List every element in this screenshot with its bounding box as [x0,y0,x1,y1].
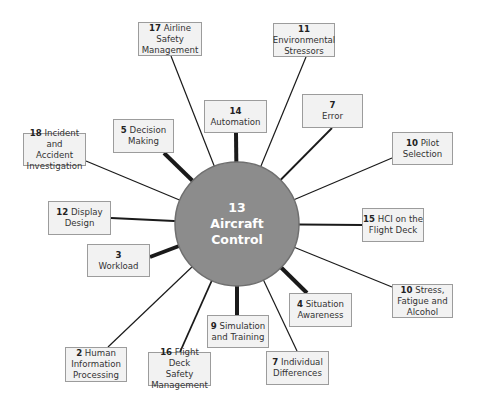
topic-text: 9 Simulation and Training [211,321,266,343]
topic-text: 15 HCI on the Flight Deck [363,214,423,236]
center-node-aircraft-control: 13 Aircraft Control [175,162,299,286]
topic-box-n16: 16 Flight Deck Safety Management [148,352,211,386]
topic-box-n18: 18 Incident and Accident Investigation [23,133,86,166]
topic-number: 18 [30,128,42,138]
topic-text: 10 Stress, Fatigue and Alcohol [397,285,447,318]
topic-number: 10 [401,285,413,295]
topic-box-n15: 15 HCI on the Flight Deck [362,208,424,242]
center-node-label: Aircraft Control [210,216,264,248]
topic-box-n10b: 10 Stress, Fatigue and Alcohol [392,284,453,318]
topic-label: Error [322,111,343,121]
topic-number: 14 [230,106,242,116]
topic-text: 2 Human Information Processing [71,348,121,381]
topic-box-n5: 5 Decision Making [113,119,174,153]
topic-box-n10a: 10 Pilot Selection [392,132,453,165]
topic-text: 17 Airline Safety Management [142,23,199,56]
topic-label: Workload [98,261,138,271]
topic-text: 18 Incident and Accident Investigation [24,128,85,172]
topic-text: 7 Error [322,100,343,122]
topic-box-n7b: 7 Individual Differences [266,351,329,385]
topic-box-n4: 4 Situation Awareness [289,293,352,327]
topic-number: 3 [116,250,122,260]
topic-text: 14 Automation [210,106,260,128]
topic-label: Simulation and Training [212,321,266,342]
topic-label: Individual Differences [273,357,323,378]
topic-text: 16 Flight Deck Safety Management [149,347,210,391]
center-node-number: 13 [228,200,245,216]
topic-label: HCI on the Flight Deck [369,214,423,235]
topic-box-n14: 14 Automation [204,100,267,133]
topic-text: 12 Display Design [56,207,102,229]
topic-text: 3 Workload [98,250,138,272]
topic-label: Automation [210,117,260,127]
topic-box-n9: 9 Simulation and Training [207,315,269,348]
topic-box-n12: 12 Display Design [48,201,111,235]
topic-label: Display Design [65,207,103,228]
topic-box-n7a: 7 Error [302,94,363,128]
topic-text: 7 Individual Differences [272,357,323,379]
topic-number: 16 [160,347,172,357]
topic-label: Decision Making [127,125,166,146]
topic-text: 5 Decision Making [121,125,166,147]
topic-box-n11: 11 Environmental Stressors [273,23,335,57]
topic-number: 15 [363,214,375,224]
topic-text: 10 Pilot Selection [403,138,443,160]
topic-box-n3: 3 Workload [87,244,150,277]
topic-box-n17: 17 Airline Safety Management [138,22,202,56]
topic-number: 11 [298,24,310,34]
aircraft-control-diagram: 13 Aircraft Control 17 Airline Safety Ma… [0,0,477,404]
topic-text: 4 Situation Awareness [297,299,344,321]
topic-text: 11 Environmental Stressors [273,24,336,57]
topic-label: Situation Awareness [297,299,344,320]
topic-label: Environmental Stressors [273,35,336,56]
topic-number: 10 [406,138,418,148]
topic-number: 7 [330,100,336,110]
topic-box-n2: 2 Human Information Processing [65,347,127,382]
topic-number: 12 [56,207,68,217]
topic-number: 17 [149,23,161,33]
